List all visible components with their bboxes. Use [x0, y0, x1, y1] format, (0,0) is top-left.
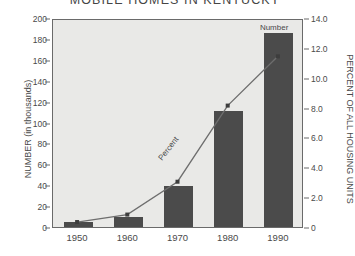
right-tick-mark-4.0: [304, 168, 309, 169]
bar-1970: [164, 186, 193, 227]
right-tick-mark-14.0: [304, 19, 309, 20]
bar-1990: [264, 33, 293, 227]
x-tick-label-1990: 1990: [256, 232, 300, 243]
right-tick-mark-0: [304, 228, 309, 229]
bar-1980: [214, 111, 243, 227]
left-tick-mark-200: [45, 19, 50, 20]
left-tick-label-180: 180: [3, 35, 47, 45]
right-tick-label-0: 0: [311, 223, 351, 233]
left-tick-mark-20: [45, 207, 50, 208]
x-tick-label-1980: 1980: [206, 232, 250, 243]
number-series-annotation: Number: [260, 23, 288, 32]
plot-inner: [53, 20, 302, 227]
left-tick-label-200: 200: [3, 14, 47, 24]
left-tick-mark-60: [45, 165, 50, 166]
bar-1950: [64, 222, 93, 227]
right-tick-mark-2.0: [304, 198, 309, 199]
left-tick-mark-40: [45, 186, 50, 187]
x-tick-label-1960: 1960: [105, 232, 149, 243]
plot-area: [52, 19, 303, 228]
right-tick-mark-10.0: [304, 78, 309, 79]
x-tick-label-1950: 1950: [55, 232, 99, 243]
x-tick-label-1970: 1970: [156, 232, 200, 243]
left-tick-mark-120: [45, 102, 50, 103]
left-axis-title: NUMBER (in thousands): [23, 49, 33, 209]
page-title: MOBILE HOMES IN KENTUCKY: [0, 0, 350, 7]
left-tick-mark-100: [45, 123, 50, 124]
bar-1960: [114, 217, 143, 227]
left-tick-mark-0: [45, 228, 50, 229]
right-tick-mark-6.0: [304, 138, 309, 139]
left-tick-label-0: 0: [3, 223, 47, 233]
right-tick-label-14.0: 14.0: [311, 14, 351, 24]
right-tick-mark-8.0: [304, 108, 309, 109]
right-tick-mark-12.0: [304, 48, 309, 49]
left-tick-mark-80: [45, 144, 50, 145]
left-tick-mark-140: [45, 81, 50, 82]
right-axis-title: PERCENT OF ALL HOUSING UNITS: [345, 34, 355, 224]
left-tick-mark-160: [45, 60, 50, 61]
left-tick-mark-180: [45, 39, 50, 40]
